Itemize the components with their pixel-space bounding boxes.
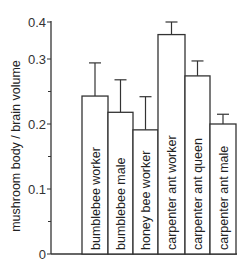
bar-category-label: carpenter ant male — [217, 146, 231, 250]
bar-chart: mushroom body / brain volume 00.10.20.30… — [0, 0, 247, 268]
bar-category-label: honey bee worker — [139, 151, 153, 250]
bar-category-label: carpenter ant queen — [191, 138, 205, 250]
y-axis-label: mushroom body / brain volume — [9, 60, 23, 232]
bar: carpenter ant worker — [158, 22, 185, 254]
bar-category-label: carpenter ant worker — [165, 135, 179, 250]
y-tick-label: 0.2 — [28, 117, 46, 132]
y-tick-label: 0.3 — [28, 52, 46, 67]
y-tick-label: 0.4 — [28, 15, 46, 30]
bar: honey bee worker — [133, 97, 158, 254]
bar: carpenter ant queen — [185, 61, 210, 254]
bar: carpenter ant male — [210, 114, 236, 254]
bar: bumblebee worker — [82, 63, 108, 254]
bar-category-label: bumblebee male — [114, 158, 128, 250]
bar: bumblebee male — [108, 80, 133, 254]
y-tick-label: 0 — [39, 247, 46, 262]
y-tick-label: 0.1 — [28, 182, 46, 197]
bar-category-label: bumblebee worker — [89, 147, 103, 250]
bars: bumblebee workerbumblebee malehoney bee … — [82, 22, 236, 254]
